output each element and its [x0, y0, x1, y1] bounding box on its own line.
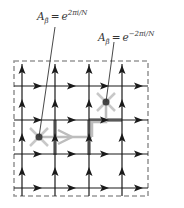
- lattice-diagram: Aβ̄=e2πi/N Aβ̄=e−2πi/N: [0, 0, 184, 208]
- boundary-dashed: [14, 61, 148, 196]
- leader-line-negative: [106, 42, 114, 102]
- label-negative-phase: Aβ̄=e−2πi/N: [97, 30, 155, 46]
- label-positive-phase: Aβ̄=e2πi/N: [36, 9, 88, 25]
- string-path: [39, 102, 106, 144]
